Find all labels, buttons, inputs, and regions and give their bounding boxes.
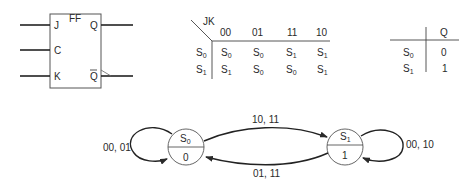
flip-flop-symbol: FF J C K Q Q bbox=[20, 13, 133, 88]
output-row-state: S1 bbox=[403, 63, 414, 75]
output-value: 0 bbox=[441, 47, 447, 58]
state-diagram: S0 0 S1 1 00, 01 10, 11 01, 11 00, 10 bbox=[103, 114, 434, 179]
table-cell: S1 bbox=[317, 64, 328, 76]
state-output: 1 bbox=[342, 150, 348, 161]
table-cell: S0 bbox=[221, 47, 232, 59]
qbar-tick bbox=[101, 70, 111, 76]
row-state: S0 bbox=[196, 47, 207, 59]
table-cell: S0 bbox=[253, 47, 264, 59]
output-table: Q S0 0 S1 1 bbox=[390, 27, 459, 75]
row-state: S1 bbox=[196, 64, 207, 76]
transition-s1-self-arrow bbox=[361, 130, 403, 161]
output-value: 1 bbox=[442, 63, 448, 74]
state-node-s0: S0 0 bbox=[168, 129, 204, 165]
table-cell: S1 bbox=[221, 64, 232, 76]
col-header: 10 bbox=[316, 27, 328, 38]
q-label: Q bbox=[90, 20, 98, 31]
transition-s1-to-s0-label: 01, 11 bbox=[253, 168, 280, 179]
transition-s0-self-label: 00, 01 bbox=[103, 142, 131, 153]
state-node-s1: S1 1 bbox=[327, 129, 363, 165]
c-label: C bbox=[54, 45, 61, 56]
table-cell: S0 bbox=[253, 64, 264, 76]
j-label: J bbox=[54, 20, 59, 31]
state-output: 0 bbox=[183, 152, 189, 163]
diagram-canvas: FF J C K Q Q JK 00 01 11 10 S0 S0 S0 S1 … bbox=[0, 0, 473, 182]
transition-s0-to-s1-label: 10, 11 bbox=[252, 114, 279, 125]
ff-title: FF bbox=[69, 13, 81, 24]
corner-label: JK bbox=[203, 16, 215, 27]
col-header: 01 bbox=[252, 27, 264, 38]
transition-s1-self-label: 00, 10 bbox=[406, 139, 434, 150]
qbar-label: Q bbox=[90, 71, 98, 82]
table-cell: S0 bbox=[286, 64, 297, 76]
table-cell: S1 bbox=[317, 47, 328, 59]
col-header: 11 bbox=[287, 27, 298, 38]
transition-s1-to-s0-arrow bbox=[206, 153, 328, 165]
table-cell: S1 bbox=[286, 47, 297, 59]
k-label: K bbox=[54, 71, 61, 82]
output-header: Q bbox=[440, 27, 448, 38]
col-header: 00 bbox=[220, 27, 232, 38]
excitation-table: JK 00 01 11 10 S0 S0 S0 S1 S1 S1 S1 S0 S… bbox=[191, 16, 330, 79]
transition-s0-to-s1-arrow bbox=[204, 128, 327, 141]
transition-s0-self-arrow bbox=[130, 128, 172, 162]
output-row-state: S0 bbox=[403, 47, 414, 59]
